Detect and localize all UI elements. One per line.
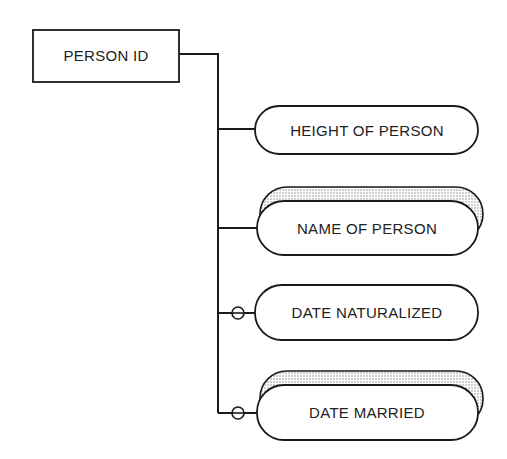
attribute-label: NAME OF PERSON	[297, 220, 437, 237]
attribute-label: DATE MARRIED	[309, 404, 425, 421]
key-entity-box[interactable]: PERSON ID	[33, 30, 179, 82]
attribute-date-married[interactable]: DATE MARRIED	[257, 371, 483, 440]
connector-lines	[179, 54, 257, 413]
key-entity-label: PERSON ID	[63, 47, 148, 64]
attribute-label: DATE NATURALIZED	[292, 304, 443, 321]
attribute-height-of-person[interactable]: HEIGHT OF PERSON	[255, 106, 478, 154]
attribute-label: HEIGHT OF PERSON	[290, 122, 444, 139]
attribute-name-of-person[interactable]: NAME OF PERSON	[257, 187, 483, 255]
diagram-canvas: PERSON ID HEIGHT OF PERSON NAME OF PERSO…	[0, 0, 507, 459]
attribute-date-naturalized[interactable]: DATE NATURALIZED	[255, 285, 478, 340]
trunk-line	[179, 54, 218, 413]
